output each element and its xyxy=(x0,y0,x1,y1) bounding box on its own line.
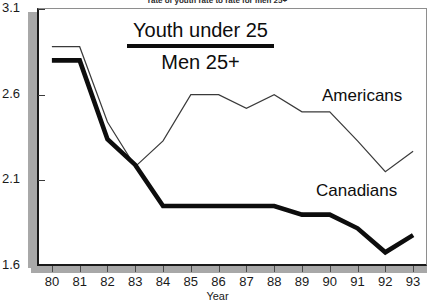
legend-fraction-bar xyxy=(127,44,274,48)
legend-denominator: Men 25+ xyxy=(113,50,288,74)
series-label-americans: Americans xyxy=(322,86,402,106)
x-tick xyxy=(358,266,359,272)
y-tick xyxy=(38,180,45,181)
x-tick-label: 81 xyxy=(67,274,93,289)
y-tick xyxy=(38,95,45,96)
x-tick xyxy=(330,266,331,272)
x-tick-label: 80 xyxy=(39,274,65,289)
x-tick-label: 84 xyxy=(150,274,176,289)
x-tick-label: 86 xyxy=(206,274,232,289)
x-tick-label: 93 xyxy=(400,274,426,289)
x-tick xyxy=(80,266,81,272)
x-tick xyxy=(52,266,53,272)
x-tick-label: 91 xyxy=(345,274,371,289)
x-tick xyxy=(135,266,136,272)
x-tick-label: 83 xyxy=(122,274,148,289)
y-tick-label: 2.6 xyxy=(2,86,28,101)
x-tick-label: 89 xyxy=(289,274,315,289)
x-tick xyxy=(246,266,247,272)
x-tick xyxy=(274,266,275,272)
x-tick-label: 85 xyxy=(178,274,204,289)
x-tick-label: 88 xyxy=(261,274,287,289)
y-tick xyxy=(38,9,45,10)
x-tick-label: 92 xyxy=(372,274,398,289)
chart-figure: rate of youth rate to rate for men 25+ Y… xyxy=(0,0,435,305)
x-tick xyxy=(385,266,386,272)
x-tick xyxy=(163,266,164,272)
y-tick-label: 3.1 xyxy=(2,0,28,15)
x-tick xyxy=(413,266,414,272)
x-axis-title: Year xyxy=(0,290,435,302)
x-tick-label: 90 xyxy=(317,274,343,289)
y-tick-label: 1.6 xyxy=(2,257,28,272)
x-tick xyxy=(219,266,220,272)
x-tick-label: 87 xyxy=(233,274,259,289)
x-tick xyxy=(107,266,108,272)
y-tick-label: 2.1 xyxy=(2,171,28,186)
legend-numerator: Youth under 25 xyxy=(113,18,288,42)
x-tick xyxy=(191,266,192,272)
x-tick xyxy=(302,266,303,272)
legend-fraction: Youth under 25 Men 25+ xyxy=(113,18,288,74)
series-label-canadians: Canadians xyxy=(316,181,397,201)
x-tick-label: 82 xyxy=(94,274,120,289)
